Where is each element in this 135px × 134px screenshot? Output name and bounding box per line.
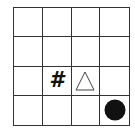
circle-icon bbox=[104, 99, 126, 121]
board-cell-r1-c3[interactable] bbox=[100, 37, 129, 66]
board-cell-r1-c1[interactable] bbox=[43, 37, 72, 66]
board-cell-r2-c2[interactable] bbox=[72, 67, 101, 96]
hash-icon: # bbox=[49, 70, 64, 91]
board-cell-r3-c3[interactable] bbox=[100, 96, 129, 125]
board-cell-r0-c2[interactable] bbox=[72, 8, 101, 37]
board-cell-r2-c1[interactable]: # bbox=[43, 67, 72, 96]
game-board: # bbox=[13, 7, 130, 126]
board-cell-r1-c2[interactable] bbox=[72, 37, 101, 66]
board-cell-r1-c0[interactable] bbox=[14, 37, 43, 66]
board-cell-r0-c3[interactable] bbox=[100, 8, 129, 37]
board-cell-r3-c2[interactable] bbox=[72, 96, 101, 125]
board-cell-r3-c1[interactable] bbox=[43, 96, 72, 125]
board-cell-r2-c3[interactable] bbox=[100, 67, 129, 96]
board-cell-r0-c1[interactable] bbox=[43, 8, 72, 37]
board-cell-r0-c0[interactable] bbox=[14, 8, 43, 37]
board-cell-r2-c0[interactable] bbox=[14, 67, 43, 96]
board-cell-r3-c0[interactable] bbox=[14, 96, 43, 125]
triangle-icon bbox=[75, 71, 95, 91]
